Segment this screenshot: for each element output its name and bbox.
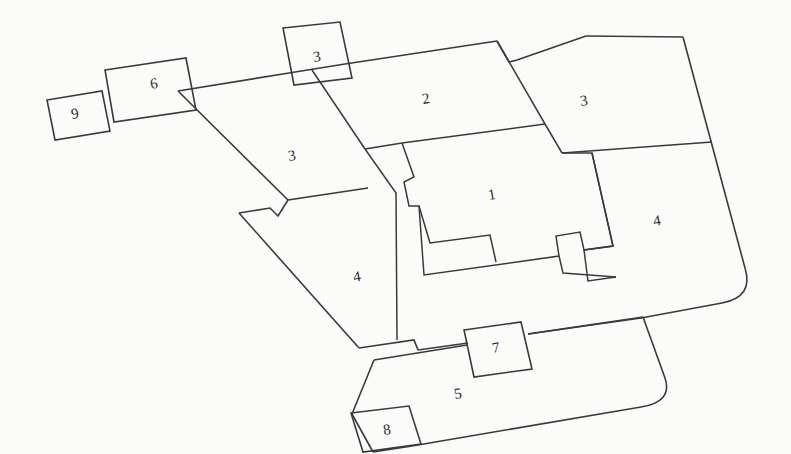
wall-zone1-inner-notch: [419, 206, 496, 262]
wall-zone2-bottom-right: [402, 124, 545, 143]
outline-right-upper-edge: [586, 36, 683, 37]
wing-right-edge: [643, 317, 665, 378]
wall-zone3right-left: [545, 124, 562, 153]
outline-top-right-edge: [497, 36, 586, 62]
wing-top-edge: [374, 345, 467, 360]
outline-left-lower-diagonal: [239, 213, 359, 348]
floor-plan-drawing: [0, 0, 791, 454]
outline-bottom-step: [359, 340, 418, 350]
wing-top-edge-right: [528, 317, 643, 334]
wall-zone1-outline: [402, 143, 613, 275]
outline-left-upper-diagonal: [178, 91, 288, 200]
wing-rounded-corner: [412, 378, 667, 446]
wall-zone2-bottom: [365, 143, 402, 149]
wing-left-edge: [352, 414, 373, 452]
outline-right-edge: [683, 37, 745, 268]
outline-top-edge: [178, 41, 497, 91]
floor-plan-canvas: 9 6 3 2 3 3 1 4 4 7 5 8: [0, 0, 791, 454]
wall-zone3left-zone4left: [365, 149, 397, 340]
wing-bottom-edge: [373, 446, 412, 452]
outline-left-notch: [239, 188, 368, 216]
outline-right-rounded-corner: [641, 268, 747, 318]
wing-left-edge-upper: [352, 360, 374, 414]
wall-zone3right-zone4right: [562, 142, 712, 153]
wall-zone4right-left-edge: [584, 153, 616, 281]
